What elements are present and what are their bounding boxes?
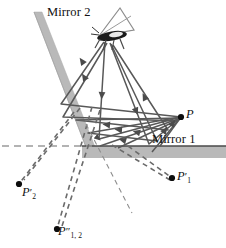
point-label-P1-prime: P′1	[177, 170, 191, 183]
point-label-P12-base: P	[58, 224, 66, 238]
point-label-P2-subscript: 2	[32, 192, 36, 201]
point-label-P1-subscript: 1	[187, 176, 191, 185]
mirror-2-label: Mirror 2	[47, 6, 91, 19]
point-label-P12-prime-mark: ″	[66, 225, 71, 237]
ray-path-3	[61, 42, 181, 117]
ray-diagram-figure: Mirror 2 Mirror 1 P P′1 P′2 P″1, 2	[0, 0, 226, 248]
point-dot-P1	[169, 175, 175, 181]
dashed-to-P2-a	[19, 112, 74, 184]
point-label-P2-base: P	[22, 185, 30, 199]
mirror-1-band	[82, 146, 226, 158]
mirror-1-label: Mirror 1	[152, 133, 196, 146]
point-label-P-text: P	[186, 107, 194, 121]
point-label-P: P	[186, 108, 194, 121]
ray-diagram-canvas	[0, 0, 226, 248]
point-label-P2-prime: P′2	[22, 186, 36, 199]
point-label-P12-subscript: 1, 2	[71, 231, 82, 240]
point-dot-P	[178, 114, 184, 120]
insect-icon	[91, 8, 134, 50]
point-label-P12-double-prime: P″1, 2	[58, 225, 82, 238]
point-label-P1-base: P	[177, 169, 185, 183]
dashed-to-P2-b	[24, 108, 80, 180]
